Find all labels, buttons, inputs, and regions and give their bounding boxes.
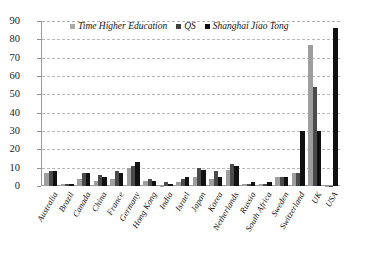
bar-group: [43, 21, 60, 186]
x-tick-cell: Brazil: [59, 188, 76, 258]
bar-group: [257, 21, 274, 186]
x-tick-cell: Netherlands: [224, 188, 241, 258]
bar-group: [208, 21, 225, 186]
x-tick-cell: Switzerland: [290, 188, 307, 258]
bar-group: [307, 21, 324, 186]
legend-item: QS: [176, 21, 196, 31]
x-tick-cell: China: [92, 188, 109, 258]
bar-group: [241, 21, 258, 186]
x-tick-cell: Israel: [175, 188, 192, 258]
y-tick-label-0: 0: [0, 180, 20, 191]
y-tick-label-20: 20: [0, 143, 20, 154]
x-tick-label: UK: [309, 190, 324, 205]
bar-group: [224, 21, 241, 186]
bar: [135, 162, 139, 186]
x-tick-cell: Canada: [76, 188, 93, 258]
bar: [201, 170, 205, 187]
x-tick-cell: Hong Kong: [142, 188, 159, 258]
bar-group: [76, 21, 93, 186]
bar: [119, 173, 123, 186]
bar: [53, 171, 57, 186]
bar-group: [290, 21, 307, 186]
x-tick-label: Israel: [173, 190, 192, 213]
y-tick-label-10: 10: [0, 162, 20, 173]
y-tick-label-50: 50: [0, 88, 20, 99]
legend-swatch-icon: [205, 24, 210, 29]
bar: [152, 181, 156, 187]
y-tick-label-60: 60: [0, 70, 20, 81]
bar: [86, 173, 90, 186]
x-tick-cell: UK: [307, 188, 324, 258]
x-tick-cell: France: [109, 188, 126, 258]
bar-group: [175, 21, 192, 186]
bar-group: [109, 21, 126, 186]
legend-item: Shanghai Jiao Tong: [205, 21, 289, 31]
bar-group: [125, 21, 142, 186]
bar-group: [191, 21, 208, 186]
bar: [102, 177, 106, 186]
legend-swatch-icon: [176, 24, 181, 29]
y-tick-label-70: 70: [0, 52, 20, 63]
bar: [218, 177, 222, 186]
bar: [284, 177, 288, 186]
legend-label: QS: [184, 21, 196, 31]
bar-groups: [43, 21, 340, 186]
bar: [267, 182, 271, 186]
bar: [251, 182, 255, 186]
bar: [185, 177, 189, 186]
bar-group: [274, 21, 291, 186]
y-tick-mark-0: [37, 186, 41, 187]
x-tick-label: Japan: [189, 190, 208, 213]
bar: [333, 28, 337, 186]
x-tick-cell: India: [158, 188, 175, 258]
x-tick-cell: Australia: [43, 188, 60, 258]
bar: [317, 131, 321, 186]
chart-legend: Time Higher EducationQSShanghai Jiao Ton…: [70, 21, 289, 31]
legend-swatch-icon: [70, 24, 75, 29]
bar-group: [92, 21, 109, 186]
bar: [234, 166, 238, 186]
y-tick-label-40: 40: [0, 107, 20, 118]
x-tick-cell: Japan: [191, 188, 208, 258]
legend-label: Shanghai Jiao Tong: [213, 21, 289, 31]
y-tick-label-30: 30: [0, 125, 20, 136]
bar-group: [59, 21, 76, 186]
y-tick-label-90: 90: [0, 15, 20, 26]
x-tick-label: USA: [323, 190, 340, 209]
bar: [300, 131, 304, 186]
bar: [69, 184, 73, 186]
bar-chart: 0102030405060708090 Time Higher Educatio…: [0, 0, 365, 259]
x-axis-tick-labels: AustraliaBrazilCanadaChinaFranceGermanyH…: [43, 188, 340, 258]
bar-group: [158, 21, 175, 186]
x-tick-cell: South Africa: [257, 188, 274, 258]
x-tick-cell: USA: [323, 188, 340, 258]
bar: [168, 184, 172, 186]
bar-group: [323, 21, 340, 186]
legend-item: Time Higher Education: [70, 21, 167, 31]
legend-label: Time Higher Education: [78, 21, 167, 31]
y-tick-label-80: 80: [0, 33, 20, 44]
bar-group: [142, 21, 159, 186]
x-tick-label: Australia: [34, 190, 59, 223]
